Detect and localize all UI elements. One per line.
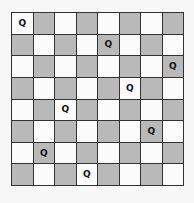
board-square-r7-c1 (34, 164, 55, 185)
board-square-r0-c0: Q (12, 13, 33, 34)
board-square-r1-c1 (34, 35, 55, 56)
board-square-r4-c4 (98, 100, 119, 121)
board-square-r5-c6: Q (141, 121, 162, 142)
board-square-r4-c7 (163, 100, 184, 121)
board-square-r6-c4 (98, 143, 119, 164)
board-square-r5-c0 (12, 121, 33, 142)
queen-icon: Q (169, 62, 177, 71)
board-square-r1-c4: Q (98, 35, 119, 56)
board-square-r2-c0 (12, 56, 33, 77)
queen-icon: Q (61, 105, 69, 114)
board-square-r4-c0 (12, 100, 33, 121)
board-square-r2-c3 (77, 56, 98, 77)
board-square-r7-c4 (98, 164, 119, 185)
board-square-r3-c2 (55, 78, 76, 99)
board-square-r6-c6 (141, 143, 162, 164)
board-square-r4-c3 (77, 100, 98, 121)
board-square-r7-c7 (163, 164, 184, 185)
board-square-r2-c6 (141, 56, 162, 77)
board-square-r3-c1 (34, 78, 55, 99)
board-square-r2-c2 (55, 56, 76, 77)
board-square-r0-c6 (141, 13, 162, 34)
board-square-r6-c1: Q (34, 143, 55, 164)
board-square-r0-c4 (98, 13, 119, 34)
queen-icon: Q (83, 170, 91, 179)
board-square-r2-c5 (120, 56, 141, 77)
board-square-r5-c7 (163, 121, 184, 142)
board-square-r6-c7 (163, 143, 184, 164)
board-square-r3-c4 (98, 78, 119, 99)
queen-icon: Q (18, 19, 26, 28)
board-square-r3-c7 (163, 78, 184, 99)
board-square-r3-c0 (12, 78, 33, 99)
board-square-r3-c3 (77, 78, 98, 99)
board-square-r5-c3 (77, 121, 98, 142)
board-square-r7-c6 (141, 164, 162, 185)
board-square-r6-c0 (12, 143, 33, 164)
queen-icon: Q (104, 40, 112, 49)
board-square-r5-c4 (98, 121, 119, 142)
board-square-r5-c1 (34, 121, 55, 142)
board-square-r4-c5 (120, 100, 141, 121)
board-square-r1-c3 (77, 35, 98, 56)
board-square-r5-c2 (55, 121, 76, 142)
board-square-r0-c2 (55, 13, 76, 34)
board-square-r6-c5 (120, 143, 141, 164)
board-square-r7-c2 (55, 164, 76, 185)
board-square-r7-c5 (120, 164, 141, 185)
queen-icon: Q (126, 84, 134, 93)
board-square-r1-c2 (55, 35, 76, 56)
board-square-r4-c6 (141, 100, 162, 121)
board-square-r0-c7 (163, 13, 184, 34)
board-square-r1-c5 (120, 35, 141, 56)
board-square-r7-c0 (12, 164, 33, 185)
board-square-r1-c0 (12, 35, 33, 56)
board-square-r0-c5 (120, 13, 141, 34)
board-square-r0-c1 (34, 13, 55, 34)
board-square-r3-c6 (141, 78, 162, 99)
queen-icon: Q (40, 149, 48, 158)
board-square-r1-c7 (163, 35, 184, 56)
queen-icon: Q (147, 127, 155, 136)
chessboard: QQQQQQQQ (11, 12, 184, 186)
board-square-r6-c2 (55, 143, 76, 164)
board-square-r2-c7: Q (163, 56, 184, 77)
board-square-r3-c5: Q (120, 78, 141, 99)
board-square-r4-c2: Q (55, 100, 76, 121)
board-square-r4-c1 (34, 100, 55, 121)
board-square-r2-c4 (98, 56, 119, 77)
board-square-r6-c3 (77, 143, 98, 164)
board-square-r1-c6 (141, 35, 162, 56)
board-square-r2-c1 (34, 56, 55, 77)
board-square-r5-c5 (120, 121, 141, 142)
board-square-r7-c3: Q (77, 164, 98, 185)
board-square-r0-c3 (77, 13, 98, 34)
